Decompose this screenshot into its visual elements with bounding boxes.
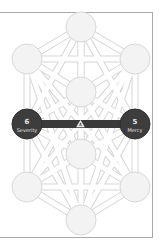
node-lower-right[interactable] (120, 172, 150, 202)
node-label: Mercy (127, 127, 142, 134)
node-label: Severity (17, 127, 38, 134)
node-lower-left[interactable] (12, 172, 42, 202)
node-center-upper[interactable] (66, 77, 96, 107)
node-bottom[interactable] (66, 205, 96, 235)
node-upper-left[interactable] (12, 44, 42, 74)
node-center-lower[interactable] (66, 139, 96, 169)
node-upper-right[interactable] (120, 44, 150, 74)
node-number: 6 (25, 118, 30, 126)
node-top[interactable] (66, 12, 96, 42)
tree-of-life-diagram: 6 Severity 5 Mercy (0, 0, 166, 243)
node-number: 5 (133, 118, 138, 126)
